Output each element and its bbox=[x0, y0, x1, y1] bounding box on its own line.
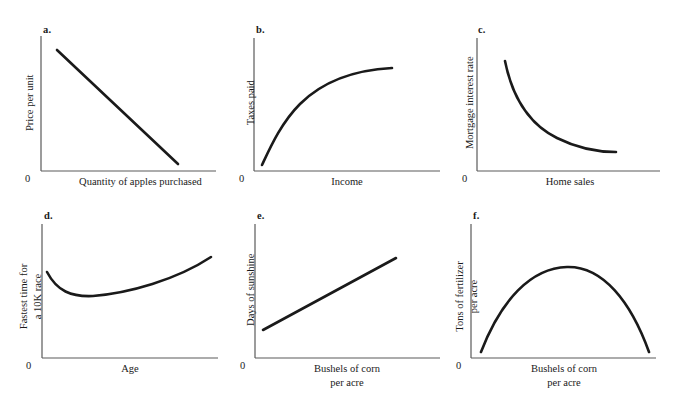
panel-f-ylabel: Tons of fertilizer per acre bbox=[453, 237, 480, 357]
panel-f-curve bbox=[481, 267, 649, 352]
panel-f-plot bbox=[0, 0, 674, 403]
panel-f-xlabel: Bushels of corn per acre bbox=[504, 362, 624, 389]
figure-container: a. 0 Quantity of apples purchased Price … bbox=[0, 0, 674, 403]
panel-f-origin-label: 0 bbox=[456, 360, 461, 371]
